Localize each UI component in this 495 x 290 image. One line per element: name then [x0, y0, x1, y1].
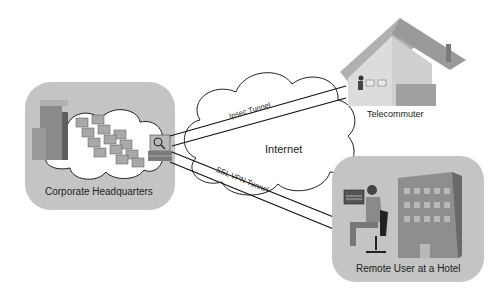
- vpn-diagram: [0, 0, 495, 290]
- hq-label: Corporate Headquarters: [45, 186, 153, 197]
- hotel-building-icon: [398, 172, 462, 258]
- firewall-icon: [148, 135, 172, 161]
- telecommuter-label: Telecommuter: [367, 109, 424, 119]
- telecommuter-house-icon: [340, 18, 466, 106]
- internet-label: Internet: [265, 143, 302, 155]
- hotel-label: Remote User at a Hotel: [356, 263, 461, 274]
